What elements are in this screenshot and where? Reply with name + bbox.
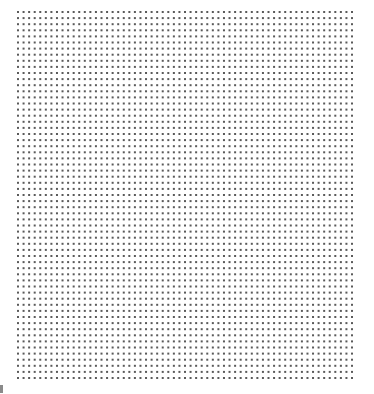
grid-dot <box>340 29 342 31</box>
grid-dot <box>256 42 258 44</box>
grid-dot <box>201 145 203 147</box>
grid-dot <box>178 194 180 196</box>
grid-dot <box>167 237 169 239</box>
grid-dot <box>128 145 130 147</box>
grid-dot <box>184 29 186 31</box>
grid-dot <box>84 334 86 336</box>
grid-dot <box>62 200 64 202</box>
grid-dot <box>45 48 47 50</box>
grid-dot <box>73 103 75 105</box>
grid-dot <box>117 237 119 239</box>
grid-dot <box>151 347 153 349</box>
grid-dot <box>301 212 303 214</box>
grid-dot <box>123 292 125 294</box>
grid-dot <box>262 273 264 275</box>
grid-dot <box>39 273 41 275</box>
grid-dot <box>262 103 264 105</box>
grid-dot <box>45 17 47 19</box>
grid-dot <box>240 267 242 269</box>
grid-dot <box>240 29 242 31</box>
grid-dot <box>217 292 219 294</box>
grid-dot <box>229 298 231 300</box>
grid-dot <box>56 17 58 19</box>
grid-dot <box>139 267 141 269</box>
grid-dot <box>240 365 242 367</box>
grid-dot <box>190 377 192 379</box>
grid-dot <box>156 304 158 306</box>
grid-dot <box>101 164 103 166</box>
grid-dot <box>345 11 347 13</box>
grid-dot <box>67 249 69 251</box>
grid-dot <box>306 182 308 184</box>
grid-dot <box>273 322 275 324</box>
grid-dot <box>56 340 58 342</box>
grid-dot <box>45 182 47 184</box>
grid-dot <box>206 176 208 178</box>
grid-dot <box>190 292 192 294</box>
grid-dot <box>251 231 253 233</box>
grid-dot <box>301 298 303 300</box>
grid-dot <box>306 237 308 239</box>
grid-dot <box>262 200 264 202</box>
grid-dot <box>345 298 347 300</box>
grid-dot <box>28 304 30 306</box>
grid-dot <box>229 200 231 202</box>
grid-dot <box>212 200 214 202</box>
grid-dot <box>23 157 25 159</box>
grid-dot <box>89 279 91 281</box>
grid-dot <box>134 42 136 44</box>
grid-dot <box>251 359 253 361</box>
grid-dot <box>178 121 180 123</box>
grid-dot <box>134 188 136 190</box>
grid-dot <box>223 17 225 19</box>
grid-dot <box>184 237 186 239</box>
grid-dot <box>295 90 297 92</box>
grid-dot <box>323 121 325 123</box>
grid-dot <box>145 170 147 172</box>
grid-dot <box>262 261 264 263</box>
grid-dot <box>106 133 108 135</box>
grid-dot <box>262 328 264 330</box>
grid-dot <box>156 267 158 269</box>
grid-dot <box>334 84 336 86</box>
grid-dot <box>323 353 325 355</box>
grid-dot <box>217 261 219 263</box>
grid-dot <box>156 261 158 263</box>
grid-dot <box>50 261 52 263</box>
grid-dot <box>234 145 236 147</box>
grid-dot <box>345 35 347 37</box>
grid-dot <box>345 121 347 123</box>
grid-dot <box>167 145 169 147</box>
grid-dot <box>206 377 208 379</box>
grid-dot <box>23 60 25 62</box>
grid-dot <box>318 218 320 220</box>
grid-dot <box>240 292 242 294</box>
grid-dot <box>240 218 242 220</box>
grid-dot <box>201 11 203 13</box>
grid-dot <box>184 157 186 159</box>
grid-dot <box>84 72 86 74</box>
grid-dot <box>217 371 219 373</box>
grid-dot <box>173 310 175 312</box>
grid-dot <box>240 249 242 251</box>
grid-dot <box>145 298 147 300</box>
grid-dot <box>45 60 47 62</box>
grid-dot <box>101 176 103 178</box>
grid-dot <box>117 127 119 129</box>
grid-dot <box>251 151 253 153</box>
grid-dot <box>162 23 164 25</box>
grid-dot <box>167 139 169 141</box>
grid-dot <box>62 72 64 74</box>
grid-dot <box>145 206 147 208</box>
grid-dot <box>229 292 231 294</box>
grid-dot <box>17 261 19 263</box>
grid-dot <box>23 90 25 92</box>
grid-dot <box>223 200 225 202</box>
grid-dot <box>128 188 130 190</box>
grid-dot <box>50 127 52 129</box>
grid-dot <box>184 90 186 92</box>
grid-dot <box>190 267 192 269</box>
grid-dot <box>229 84 231 86</box>
grid-dot <box>201 340 203 342</box>
grid-dot <box>128 298 130 300</box>
